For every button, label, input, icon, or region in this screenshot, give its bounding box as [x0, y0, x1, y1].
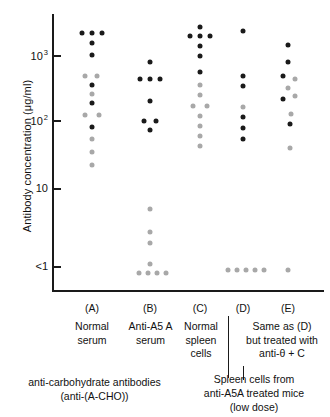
data-point [241, 74, 246, 79]
data-point [148, 99, 153, 104]
data-point [90, 101, 95, 106]
data-point [155, 271, 160, 276]
column-caption-e: Same as (D) but treated with anti-θ + C [234, 320, 330, 361]
data-point [241, 84, 246, 89]
data-point [241, 115, 246, 120]
data-point [148, 77, 153, 82]
column-key-e: (E) [281, 302, 295, 314]
y-axis-tick-label: 103 [0, 48, 48, 62]
y-axis-title: Antibody concentration (μg/ml) [21, 36, 33, 276]
y-axis-tick-mark [54, 55, 61, 57]
data-point [198, 134, 203, 139]
data-point [289, 112, 294, 117]
data-point [281, 97, 286, 102]
data-point [241, 137, 246, 142]
data-point [286, 268, 291, 273]
y-axis-tick-label: 10 [0, 182, 48, 194]
data-point [83, 74, 88, 79]
data-point [148, 128, 153, 133]
data-point [97, 113, 102, 118]
data-point [241, 126, 246, 131]
data-point [244, 268, 249, 273]
data-point [288, 122, 293, 127]
data-point [154, 119, 159, 124]
footnote-right: Spleen cells from anti-A5A treated mice … [178, 372, 330, 414]
data-point [198, 114, 203, 119]
data-point [90, 163, 95, 168]
data-point [281, 74, 286, 79]
data-point [137, 271, 142, 276]
y-axis-tick-label: 102 [0, 113, 48, 127]
data-point [90, 83, 95, 88]
data-point [90, 125, 95, 130]
data-point [235, 268, 240, 273]
data-point [90, 137, 95, 142]
data-point [205, 104, 210, 109]
data-point [198, 54, 203, 59]
y-axis-tick-mark [54, 120, 61, 122]
data-point [198, 83, 203, 88]
data-point [90, 92, 95, 97]
data-point [286, 86, 291, 91]
data-point [142, 119, 147, 124]
data-point [191, 104, 196, 109]
data-point [146, 271, 151, 276]
data-point [90, 31, 95, 36]
data-point [148, 262, 153, 267]
x-axis-line [52, 290, 324, 292]
data-point [148, 241, 153, 246]
caption-divider-line [228, 316, 229, 378]
y-axis-tick-mark [54, 188, 61, 190]
data-point [241, 29, 246, 34]
data-point [241, 105, 246, 110]
data-point [253, 268, 258, 273]
column-key-a: (A) [85, 302, 99, 314]
data-point [198, 93, 203, 98]
column-key-c: (C) [193, 302, 208, 314]
data-point [80, 31, 85, 36]
data-point [90, 150, 95, 155]
data-point [198, 70, 203, 75]
column-key-d: (D) [236, 302, 251, 314]
data-point [158, 77, 163, 82]
data-point [148, 60, 153, 65]
y-axis-tick-mark [54, 266, 61, 268]
footnote-left: anti-carbohydrate antibodies (anti-(A-CH… [0, 375, 207, 403]
column-key-b: (B) [143, 302, 157, 314]
data-point [198, 34, 203, 39]
data-point [90, 53, 95, 58]
data-point [262, 268, 267, 273]
data-point [148, 207, 153, 212]
y-axis-tick-label: <1 [0, 260, 48, 272]
data-point [198, 44, 203, 49]
data-point [286, 43, 291, 48]
data-point [226, 268, 231, 273]
data-point [138, 77, 143, 82]
data-point [286, 60, 291, 65]
column-caption-c: Normal spleen cells [170, 320, 232, 361]
scatter-plot-figure: Antibody concentration (μg/ml) 10310210<… [0, 0, 330, 417]
data-point [95, 74, 100, 79]
data-point [148, 230, 153, 235]
data-point [83, 113, 88, 118]
data-point [188, 34, 193, 39]
data-point [293, 77, 298, 82]
data-point [198, 124, 203, 129]
data-point [100, 31, 105, 36]
data-point [208, 34, 213, 39]
data-point [198, 144, 203, 149]
data-point [164, 271, 169, 276]
data-point [288, 146, 293, 151]
data-point [198, 25, 203, 30]
data-point [90, 41, 95, 46]
data-point [293, 94, 298, 99]
